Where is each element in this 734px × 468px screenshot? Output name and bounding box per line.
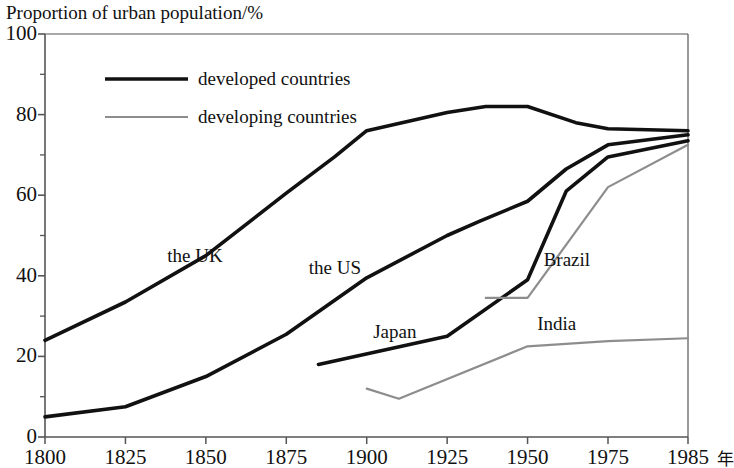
legend-label-developing: developing countries: [198, 107, 357, 126]
series-label-japan: Japan: [373, 322, 416, 341]
y-axis-tick-label: 20: [0, 345, 37, 366]
x-axis-tick-label: 1800: [5, 447, 85, 468]
x-axis-tick-label: 1900: [327, 447, 407, 468]
legend-label-developed: developed countries: [198, 69, 350, 88]
x-axis-tick-label: 1850: [166, 447, 246, 468]
series-label-the-uk: the UK: [167, 246, 222, 265]
x-axis-tick-label: 1985: [648, 447, 728, 468]
y-axis-tick-label: 0: [0, 426, 37, 447]
x-axis-unit-label: 年: [717, 449, 734, 468]
series-label-the-us: the US: [309, 258, 361, 277]
x-axis-tick-label: 1925: [407, 447, 487, 468]
axis-ticks: [38, 34, 688, 444]
y-axis-tick-label: 80: [0, 104, 37, 125]
series-label-india: India: [537, 314, 576, 333]
x-axis-tick-label: 1875: [246, 447, 326, 468]
x-axis-tick-label: 1950: [488, 447, 568, 468]
x-axis-tick-label: 1825: [85, 447, 165, 468]
y-axis-tick-label: 40: [0, 265, 37, 286]
series-label-brazil: Brazil: [544, 250, 590, 269]
plot-frame: [45, 34, 688, 437]
legend-swatches: [105, 79, 188, 117]
x-axis-tick-label: 1975: [568, 447, 648, 468]
data-series-group: [45, 107, 688, 417]
y-axis-tick-label: 60: [0, 184, 37, 205]
y-axis-tick-label: 100: [0, 23, 37, 44]
